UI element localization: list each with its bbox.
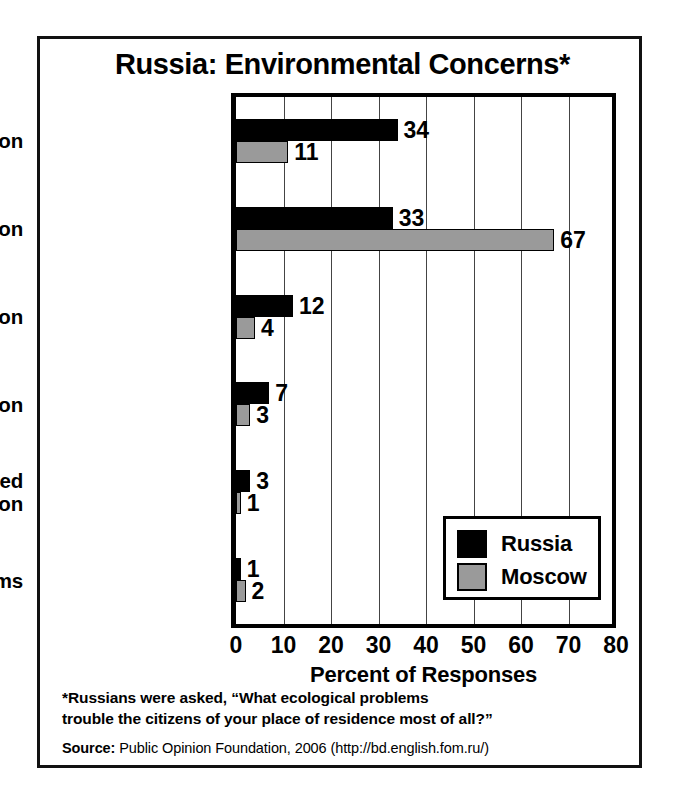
- category-label-line: Diseases caused: [0, 469, 23, 492]
- x-axis-title: Percent of Responses: [231, 662, 616, 688]
- bar-value-russia-0: 34: [404, 119, 430, 141]
- bar-russia-1: [236, 207, 393, 229]
- bar-value-moscow-3: 3: [256, 404, 269, 426]
- footnote-line-1: *Russians were asked, “What ecological p…: [62, 687, 622, 708]
- bar-value-moscow-4: 1: [247, 492, 260, 514]
- source-label: Source:: [62, 740, 115, 756]
- category-label-2: High radiation: [0, 305, 23, 328]
- bar-russia-4: [236, 470, 250, 492]
- bar-value-russia-1: 33: [399, 207, 425, 229]
- gridline-30: [379, 97, 380, 624]
- legend-label-russia: Russia: [501, 531, 572, 557]
- source-text: Public Opinion Foundation, 2006 (http://…: [115, 740, 489, 756]
- bar-moscow-5: [236, 580, 246, 602]
- category-label-line: Air pollution: [0, 217, 23, 240]
- bar-russia-0: [236, 119, 398, 141]
- chart-title: Russia: Environmental Concerns*: [40, 48, 645, 81]
- legend-swatch-moscow: [457, 563, 487, 591]
- bar-moscow-2: [236, 317, 255, 339]
- category-label-line: by pollution: [0, 492, 23, 515]
- bar-moscow-0: [236, 141, 288, 163]
- category-label-5: No problems: [0, 569, 23, 592]
- gridline-20: [331, 97, 332, 624]
- chart-figure: Russia: Environmental Concerns* 34113367…: [37, 36, 642, 768]
- bar-value-russia-5: 1: [247, 558, 260, 580]
- category-label-3: Deforestation: [0, 393, 23, 416]
- category-label-line: No problems: [0, 569, 23, 592]
- bar-value-moscow-0: 11: [294, 141, 318, 163]
- bar-moscow-4: [236, 492, 241, 514]
- bar-value-moscow-5: 2: [252, 580, 265, 602]
- legend-swatch-russia: [457, 530, 487, 558]
- footnote-line-2: trouble the citizens of your place of re…: [62, 708, 622, 729]
- category-label-1: Air pollution: [0, 217, 23, 240]
- gridline-40: [426, 97, 427, 624]
- legend-label-moscow: Moscow: [501, 564, 587, 590]
- bar-value-russia-3: 7: [275, 382, 288, 404]
- category-label-line: Water pollution: [0, 129, 23, 152]
- category-label-4: Diseases causedby pollution: [0, 469, 23, 515]
- chart-legend: RussiaMoscow: [443, 516, 601, 600]
- bar-russia-2: [236, 295, 293, 317]
- category-label-line: High radiation: [0, 305, 23, 328]
- x-tick-80: 80: [586, 632, 646, 659]
- bar-value-russia-4: 3: [256, 470, 269, 492]
- bar-value-moscow-1: 67: [560, 229, 586, 251]
- bar-moscow-1: [236, 229, 554, 251]
- category-label-0: Water pollution: [0, 129, 23, 152]
- source-note: Source: Public Opinion Foundation, 2006 …: [62, 739, 622, 757]
- legend-item-moscow: Moscow: [457, 561, 587, 593]
- bar-moscow-3: [236, 404, 250, 426]
- bar-russia-5: [236, 558, 241, 580]
- legend-item-russia: Russia: [457, 528, 572, 560]
- bar-russia-3: [236, 382, 269, 404]
- footnote: *Russians were asked, “What ecological p…: [62, 687, 622, 729]
- bar-value-russia-2: 12: [299, 295, 325, 317]
- category-label-line: Deforestation: [0, 393, 23, 416]
- gridline-10: [284, 97, 285, 624]
- bar-value-moscow-2: 4: [261, 317, 274, 339]
